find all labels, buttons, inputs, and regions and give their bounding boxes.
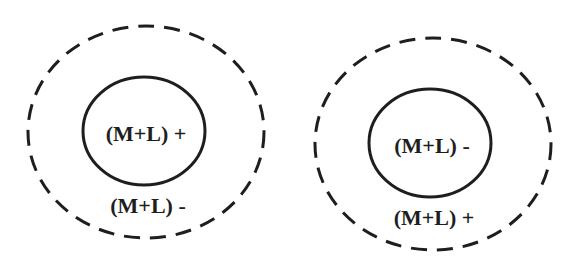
left-diagram: (M+L) + (M+L) - — [28, 26, 264, 238]
left-inner-label: (M+L) + — [106, 121, 187, 146]
right-diagram: (M+L) - (M+L) + — [315, 38, 551, 250]
diagram-canvas: (M+L) + (M+L) - (M+L) - (M+L) + — [0, 0, 572, 270]
left-outer-label: (M+L) - — [110, 193, 185, 218]
right-outer-label: (M+L) + — [394, 205, 475, 230]
right-inner-label: (M+L) - — [394, 133, 469, 158]
